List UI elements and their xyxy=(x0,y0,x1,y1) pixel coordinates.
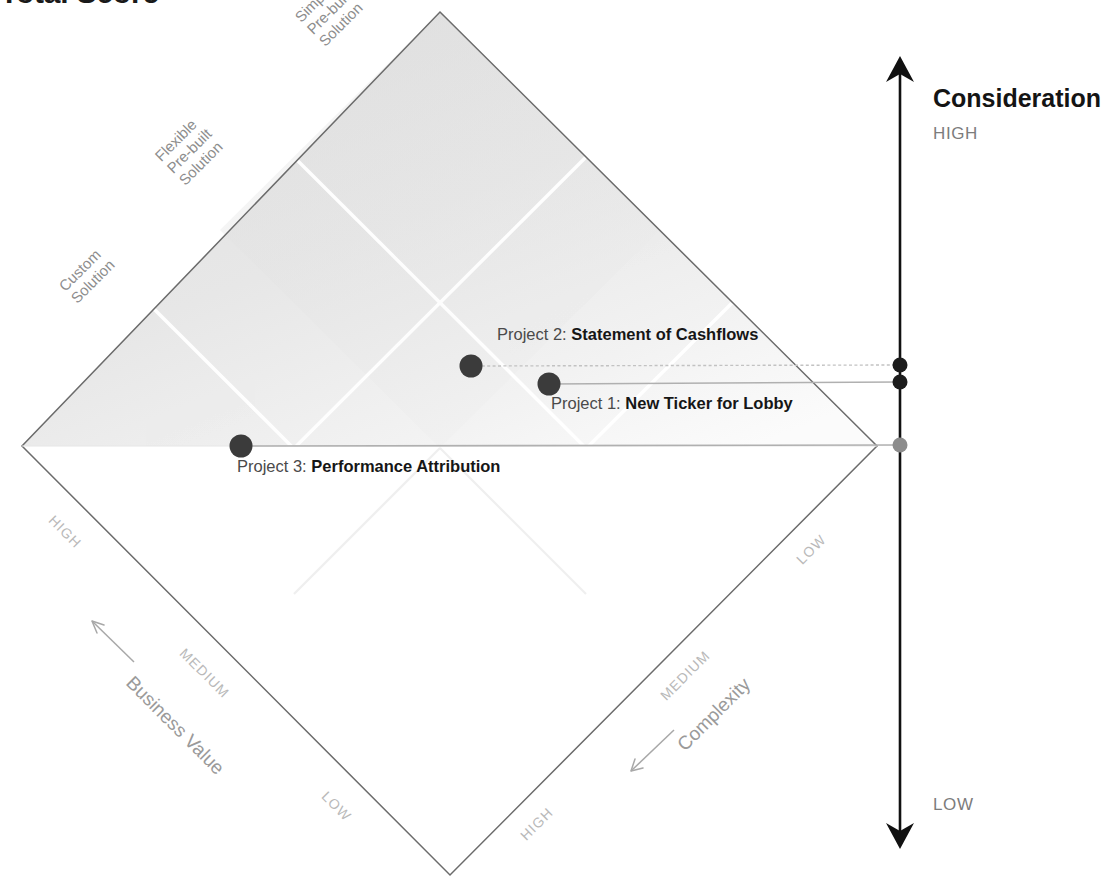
project-name: Statement of Cashflows xyxy=(571,325,758,343)
project-prefix: Project 3: xyxy=(237,457,307,475)
consideration-low-label: LOW xyxy=(933,795,974,815)
axis-marker-project-1 xyxy=(893,375,908,390)
diagram-canvas: Total Score xyxy=(0,0,1119,885)
project-dot-project-2 xyxy=(460,355,483,378)
axis-marker-project-2 xyxy=(893,358,908,373)
project-prefix: Project 1: xyxy=(551,394,621,412)
project-dot-project-3 xyxy=(230,435,253,458)
project-name: New Ticker for Lobby xyxy=(625,394,792,412)
project-prefix: Project 2: xyxy=(497,325,567,343)
project-label-project-1[interactable]: Project 1: New Ticker for Lobby xyxy=(551,394,793,413)
project-label-project-2[interactable]: Project 2: Statement of Cashflows xyxy=(497,325,758,344)
project-dot-project-1 xyxy=(538,373,561,396)
project-name: Performance Attribution xyxy=(311,457,500,475)
consideration-axis-title: Consideration xyxy=(933,84,1101,113)
axis-direction-arrows xyxy=(92,621,674,771)
consideration-high-label: HIGH xyxy=(933,124,978,144)
connector-project-3 xyxy=(241,445,900,446)
project-label-project-3[interactable]: Project 3: Performance Attribution xyxy=(237,457,500,476)
consideration-axis xyxy=(886,56,914,849)
axis-marker-project-3 xyxy=(893,438,908,453)
